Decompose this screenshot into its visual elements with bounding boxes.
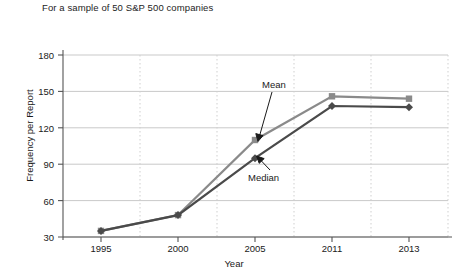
series-median (97, 102, 413, 235)
horizontal-gridlines (63, 55, 448, 237)
data-point-mean-2011 (329, 93, 335, 99)
chart-canvas (0, 0, 468, 278)
line-chart: For a sample of 50 S&P 500 companies Fre… (0, 0, 468, 278)
annotation-mean-arrow-line (260, 92, 273, 136)
annotation-median-arrow-line (261, 160, 271, 170)
data-point-mean-2013 (406, 96, 412, 102)
data-point-median-2013 (405, 103, 413, 111)
series-mean (98, 93, 412, 234)
axis-lines (58, 50, 452, 242)
